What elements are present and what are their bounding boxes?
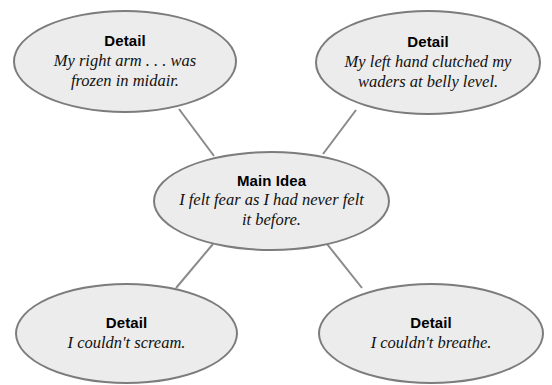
node-body: My left hand clutched my waders at belly… (345, 52, 512, 92)
node-detail-bottom-left[interactable]: Detail I couldn't scream. (15, 283, 238, 384)
connector-main-to-detail-top-left (179, 109, 214, 156)
node-heading: Detail (106, 314, 147, 331)
node-body: My right arm . . . was frozen in midair. (54, 51, 197, 91)
node-body: I couldn't breathe. (371, 333, 492, 353)
node-body: I couldn't scream. (68, 333, 186, 353)
node-main-idea[interactable]: Main Idea I felt fear as I had never fel… (153, 151, 390, 251)
node-body: I felt fear as I had never felt it befor… (179, 190, 364, 230)
connector-main-to-detail-bottom-left (176, 244, 213, 288)
diagram-canvas: Detail My right arm . . . was frozen in … (0, 0, 552, 385)
node-heading: Detail (104, 32, 145, 49)
node-heading: Detail (407, 33, 448, 50)
node-heading: Detail (410, 314, 451, 331)
node-detail-bottom-right[interactable]: Detail I couldn't breathe. (318, 283, 544, 384)
node-detail-top-right[interactable]: Detail My left hand clutched my waders a… (315, 10, 541, 115)
connector-main-to-detail-top-right (323, 110, 356, 154)
node-detail-top-left[interactable]: Detail My right arm . . . was frozen in … (13, 10, 237, 113)
node-heading: Main Idea (237, 172, 306, 189)
connector-main-to-detail-bottom-right (327, 244, 362, 288)
